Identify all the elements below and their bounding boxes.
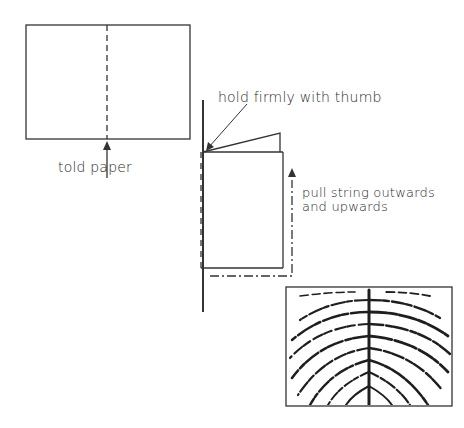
framed-print [286,287,452,406]
hold-firmly-label: hold firmly with thumb [218,90,382,104]
paper-flap [203,133,280,152]
pull-string-label-line2: and upwards [302,200,388,214]
pull-string-label-line1: pull string outwards [302,186,435,200]
string-path [210,180,292,276]
folding-setup [201,100,296,312]
diagram-canvas [0,0,464,428]
arrow-up-icon [103,141,111,150]
flat-paper [26,25,190,178]
hold-pointer-line [209,104,247,147]
told-paper-caption: told paper [58,160,132,174]
sheet-rectangle [26,25,190,139]
arrow-up-icon [288,168,296,177]
